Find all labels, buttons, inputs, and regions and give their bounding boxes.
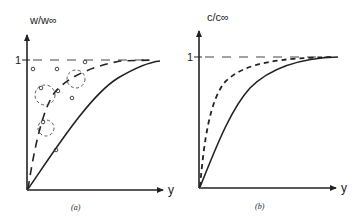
eddies-a	[35, 70, 85, 136]
panel-a: 1 w/w∞ y (a)	[15, 14, 174, 212]
tick-label-one-a: 1	[15, 54, 21, 66]
caption-b: (b)	[255, 202, 265, 211]
caption-a: (a)	[71, 203, 81, 212]
dashed-curve-b	[200, 57, 335, 187]
ylabel-b: c/c∞	[207, 11, 229, 23]
solid-curve-a	[28, 61, 160, 189]
xlabel-b: y	[341, 181, 347, 195]
figure: 1 w/w∞ y (a) 1 c/c∞	[0, 0, 360, 218]
xlabel-a: y	[168, 183, 174, 197]
ylabel-a: w/w∞	[29, 14, 57, 26]
dashed-curve-a	[28, 60, 155, 189]
panel-b: 1 c/c∞ y (b)	[187, 11, 347, 211]
solid-curve-b	[200, 57, 338, 187]
tick-label-one-b: 1	[187, 51, 193, 63]
